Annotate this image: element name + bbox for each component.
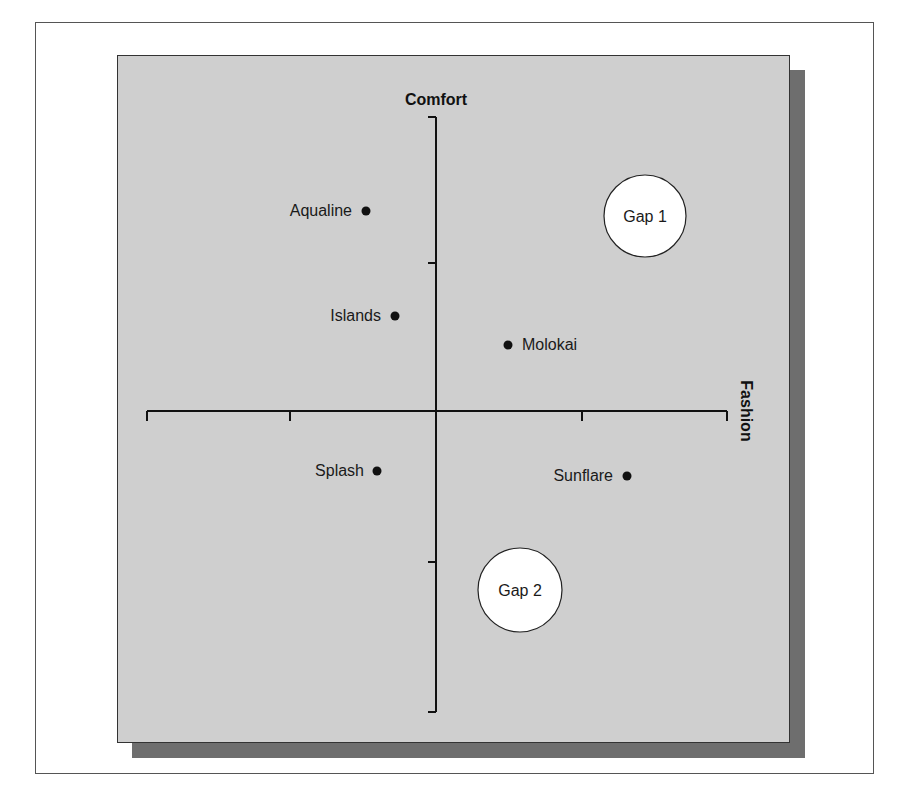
gap-label: Gap 2 — [498, 582, 542, 599]
data-point-molokai: Molokai — [504, 336, 578, 353]
point-label: Islands — [330, 307, 381, 324]
point-marker-icon — [504, 341, 513, 350]
gap-1-bubble: Gap 1 — [604, 175, 686, 257]
gap-2-bubble: Gap 2 — [478, 548, 562, 632]
point-marker-icon — [391, 312, 400, 321]
gap-label: Gap 1 — [623, 208, 667, 225]
data-point-sunflare: Sunflare — [553, 467, 631, 484]
point-marker-icon — [623, 472, 632, 481]
data-point-islands: Islands — [330, 307, 399, 324]
point-marker-icon — [373, 467, 382, 476]
point-label: Molokai — [522, 336, 577, 353]
point-label: Aqualine — [290, 202, 352, 219]
perceptual-map: Comfort Fashion Aqualine Islands Molokai… — [0, 0, 906, 803]
data-point-aqualine: Aqualine — [290, 202, 371, 219]
y-axis — [428, 117, 436, 712]
x-axis-title: Fashion — [738, 380, 755, 441]
point-marker-icon — [362, 207, 371, 216]
point-label: Splash — [315, 462, 364, 479]
y-axis-title: Comfort — [405, 91, 468, 108]
data-point-splash: Splash — [315, 462, 381, 479]
point-label: Sunflare — [553, 467, 613, 484]
